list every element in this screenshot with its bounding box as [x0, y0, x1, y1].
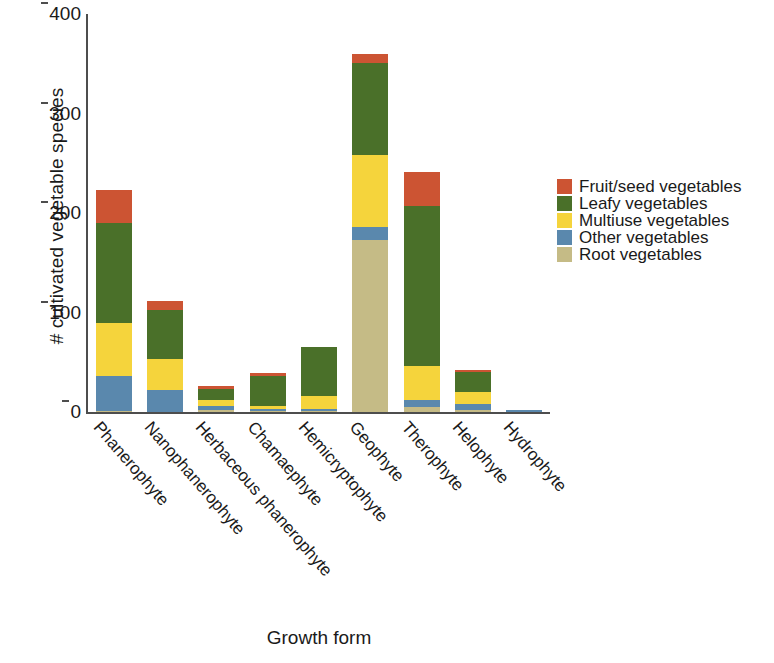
bar-segment[interactable]	[147, 301, 183, 310]
legend-color-swatch	[557, 247, 572, 262]
legend-label: Root vegetables	[579, 246, 702, 263]
bar-segment[interactable]	[404, 206, 440, 366]
x-axis-title: Growth form	[88, 627, 550, 649]
bar-phanerophyte[interactable]	[96, 190, 132, 412]
bar-segment[interactable]	[301, 396, 337, 409]
plot-area: 0100200300400 PhanerophyteNanophanerophy…	[88, 14, 550, 412]
bar-segment[interactable]	[96, 223, 132, 323]
legend-label: Other vegetables	[579, 229, 708, 246]
bar-hydrophyte[interactable]	[506, 410, 542, 412]
bar-therophyte[interactable]	[404, 172, 440, 412]
bar-segment[interactable]	[352, 240, 388, 412]
bar-segment[interactable]	[147, 359, 183, 390]
bar-segment[interactable]	[301, 411, 337, 412]
legend-color-swatch	[557, 230, 572, 245]
bar-segment[interactable]	[404, 407, 440, 412]
bar-segment[interactable]	[352, 54, 388, 63]
bar-segment[interactable]	[147, 390, 183, 412]
legend-color-swatch	[557, 179, 572, 194]
bar-helophyte[interactable]	[455, 370, 491, 412]
legend-color-swatch	[557, 196, 572, 211]
y-axis-tick-label: 400	[49, 3, 81, 25]
x-axis-line	[86, 412, 550, 414]
bar-segment[interactable]	[506, 410, 542, 412]
bar-segment[interactable]	[404, 400, 440, 407]
legend-item[interactable]: Leafy vegetables	[557, 195, 742, 212]
bar-segment[interactable]	[352, 63, 388, 156]
bar-segment[interactable]	[455, 410, 491, 412]
y-axis-tick-label: 200	[49, 202, 81, 224]
y-axis-tick-mark	[41, 2, 48, 4]
y-axis-line	[86, 14, 88, 413]
stacked-bar-chart-figure: # cultivated vegetable species 010020030…	[0, 0, 774, 663]
bar-segment[interactable]	[352, 155, 388, 227]
legend-label: Leafy vegetables	[579, 195, 708, 212]
y-axis-tick-mark	[41, 102, 48, 104]
bar-segment[interactable]	[352, 227, 388, 240]
x-axis-tick-label: Hydrophyte	[499, 418, 570, 496]
legend-label: Fruit/seed vegetables	[579, 178, 742, 195]
bar-segment[interactable]	[96, 190, 132, 223]
bar-segment[interactable]	[198, 410, 234, 412]
bar-segment[interactable]	[455, 392, 491, 404]
legend-item[interactable]: Fruit/seed vegetables	[557, 178, 742, 195]
x-axis-tick-label: Hemicryptophyte	[294, 418, 392, 526]
y-axis-tick-mark	[41, 201, 48, 203]
bar-segment[interactable]	[147, 310, 183, 360]
y-axis-tick-label: 100	[49, 302, 81, 324]
legend-item[interactable]: Root vegetables	[557, 246, 742, 263]
bar-segment[interactable]	[301, 347, 337, 396]
bar-hemicryptophyte[interactable]	[301, 347, 337, 412]
legend-item[interactable]: Other vegetables	[557, 229, 742, 246]
y-axis-tick-label: 300	[49, 103, 81, 125]
bar-segment[interactable]	[198, 389, 234, 400]
legend-label: Multiuse vegetables	[579, 212, 729, 229]
bar-herbaceous-phanerophyte[interactable]	[198, 386, 234, 412]
bar-segment[interactable]	[96, 323, 132, 376]
bar-segment[interactable]	[96, 376, 132, 411]
bar-nanophanerophyte[interactable]	[147, 301, 183, 412]
y-axis-tick-mark	[41, 301, 48, 303]
chart-legend: Fruit/seed vegetablesLeafy vegetablesMul…	[557, 178, 742, 263]
legend-color-swatch	[557, 213, 572, 228]
bar-segment[interactable]	[250, 411, 286, 412]
bar-segment[interactable]	[404, 366, 440, 400]
legend-item[interactable]: Multiuse vegetables	[557, 212, 742, 229]
bar-segment[interactable]	[455, 372, 491, 392]
bar-segment[interactable]	[250, 376, 286, 406]
bar-segment[interactable]	[96, 411, 132, 412]
y-axis-tick-mark	[62, 400, 69, 402]
bar-chamaephyte[interactable]	[250, 373, 286, 412]
bar-segment[interactable]	[404, 172, 440, 206]
bar-geophyte[interactable]	[352, 54, 388, 412]
y-axis-tick-label: 0	[70, 401, 81, 423]
